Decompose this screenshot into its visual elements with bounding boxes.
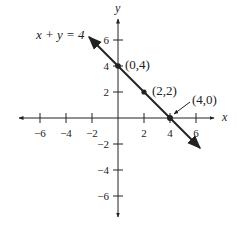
x-tick-label: −4 bbox=[60, 127, 72, 139]
y-tick-label: 6 bbox=[104, 34, 110, 46]
point-label-0-4: (0,4) bbox=[125, 57, 150, 72]
y-tick-label: 2 bbox=[104, 86, 110, 98]
x-tick-label: 6 bbox=[193, 127, 199, 139]
x-tick-label: 4 bbox=[167, 127, 173, 139]
x-tick-label: −6 bbox=[34, 127, 46, 139]
chart-canvas: −6 −4 −2 2 4 6 6 4 2 −2 −4 −6 x y (0,4) … bbox=[0, 0, 237, 231]
x-axis-label: x bbox=[221, 110, 228, 124]
y-tick-label: −6 bbox=[97, 190, 109, 202]
point-label-2-2: (2,2) bbox=[152, 83, 177, 98]
x-tick-label: −2 bbox=[86, 127, 98, 139]
coordinate-plane-figure: −6 −4 −2 2 4 6 6 4 2 −2 −4 −6 x y (0,4) … bbox=[0, 0, 237, 231]
point-2-2 bbox=[141, 89, 146, 94]
y-tick-label: −4 bbox=[97, 164, 109, 176]
y-tick-label: 4 bbox=[104, 60, 110, 72]
point-label-4-0: (4,0) bbox=[192, 92, 217, 107]
point-4-0 bbox=[167, 115, 173, 121]
equation-label: x + y = 4 bbox=[35, 27, 85, 42]
x-tick-label: 2 bbox=[141, 127, 147, 139]
point-0-4 bbox=[115, 63, 121, 69]
y-axis-label: y bbox=[114, 1, 121, 15]
annotation-arrow bbox=[174, 102, 190, 114]
y-tick-label: −2 bbox=[97, 138, 109, 150]
